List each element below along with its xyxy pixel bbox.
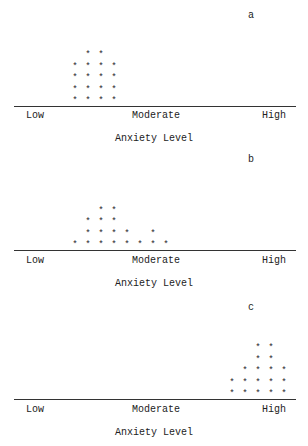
panel-a: a Low Moderate High Anxiety Level ******…: [0, 0, 308, 148]
asterisk-marker: *: [84, 97, 92, 106]
asterisk-marker: *: [97, 74, 105, 83]
asterisk-marker: *: [110, 63, 118, 72]
asterisk-marker: *: [71, 241, 79, 250]
asterisk-marker: *: [97, 63, 105, 72]
asterisk-marker: *: [97, 218, 105, 227]
asterisk-marker: *: [136, 241, 144, 250]
asterisk-marker: *: [228, 379, 236, 388]
asterisk-marker: *: [280, 367, 288, 376]
asterisk-marker: *: [267, 367, 275, 376]
tick-label-moderate: Moderate: [132, 110, 180, 121]
asterisk-marker: *: [110, 230, 118, 239]
asterisk-marker: *: [71, 86, 79, 95]
asterisk-marker: *: [254, 390, 262, 399]
asterisk-marker: *: [162, 241, 170, 250]
asterisk-marker: *: [84, 241, 92, 250]
asterisk-marker: *: [71, 97, 79, 106]
asterisk-marker: *: [254, 367, 262, 376]
asterisk-marker: *: [267, 356, 275, 365]
tick-label-high: High: [262, 404, 286, 415]
x-axis-line: [14, 399, 296, 400]
asterisk-marker: *: [241, 367, 249, 376]
asterisk-marker: *: [110, 218, 118, 227]
asterisk-marker: *: [97, 86, 105, 95]
asterisk-marker: *: [84, 63, 92, 72]
asterisk-marker: *: [110, 86, 118, 95]
asterisk-marker: *: [149, 241, 157, 250]
asterisk-marker: *: [110, 207, 118, 216]
panel-b: b Low Moderate High Anxiety Level ******…: [0, 148, 308, 296]
asterisk-marker: *: [110, 97, 118, 106]
asterisk-marker: *: [71, 63, 79, 72]
tick-label-low: Low: [26, 255, 44, 266]
tick-label-moderate: Moderate: [132, 255, 180, 266]
asterisk-marker: *: [110, 241, 118, 250]
x-axis-title: Anxiety Level: [0, 427, 308, 438]
asterisk-marker: *: [228, 390, 236, 399]
asterisk-marker: *: [84, 74, 92, 83]
asterisk-marker: *: [123, 230, 131, 239]
panel-letter: c: [248, 302, 254, 313]
tick-label-high: High: [262, 110, 286, 121]
asterisk-marker: *: [84, 218, 92, 227]
asterisk-marker: *: [97, 230, 105, 239]
panel-letter: a: [248, 10, 254, 21]
asterisk-marker: *: [241, 390, 249, 399]
asterisk-marker: *: [123, 241, 131, 250]
asterisk-marker: *: [267, 379, 275, 388]
asterisk-marker: *: [280, 390, 288, 399]
asterisk-marker: *: [241, 379, 249, 388]
asterisk-marker: *: [267, 344, 275, 353]
asterisk-marker: *: [97, 97, 105, 106]
panel-letter: b: [248, 154, 254, 165]
asterisk-marker: *: [84, 230, 92, 239]
tick-label-high: High: [262, 255, 286, 266]
tick-label-low: Low: [26, 404, 44, 415]
asterisk-marker: *: [267, 390, 275, 399]
asterisk-marker: *: [84, 86, 92, 95]
panel-c: c Low Moderate High Anxiety Level ******…: [0, 296, 308, 444]
x-axis-title: Anxiety Level: [0, 133, 308, 144]
asterisk-marker: *: [97, 51, 105, 60]
asterisk-marker: *: [97, 207, 105, 216]
tick-label-low: Low: [26, 110, 44, 121]
asterisk-marker: *: [254, 379, 262, 388]
asterisk-marker: *: [71, 74, 79, 83]
asterisk-marker: *: [97, 241, 105, 250]
asterisk-marker: *: [254, 344, 262, 353]
x-axis-line: [14, 250, 296, 251]
asterisk-marker: *: [84, 51, 92, 60]
x-axis-title: Anxiety Level: [0, 278, 308, 289]
asterisk-marker: *: [254, 356, 262, 365]
asterisk-marker: *: [149, 230, 157, 239]
x-axis-line: [14, 106, 296, 107]
asterisk-marker: *: [280, 379, 288, 388]
tick-label-moderate: Moderate: [132, 404, 180, 415]
asterisk-marker: *: [110, 74, 118, 83]
